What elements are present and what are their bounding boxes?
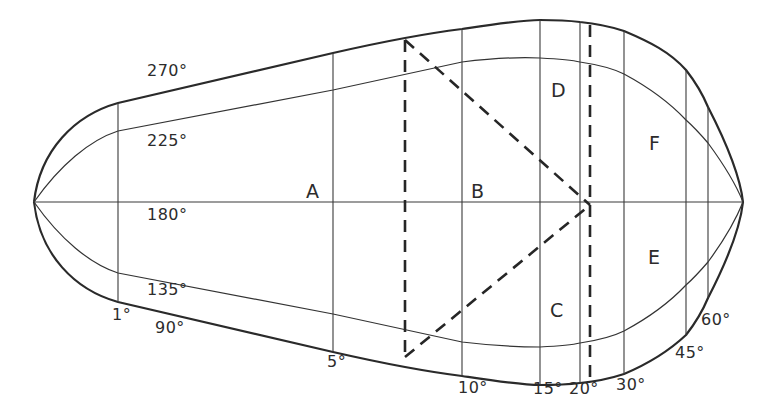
inner-curve-225 [34, 58, 743, 202]
tick-10deg: 10° [458, 378, 488, 397]
label-270: 270° [147, 61, 188, 80]
region-D: D [551, 79, 566, 101]
region-F: F [649, 132, 660, 154]
tick-5deg: 5° [327, 352, 346, 371]
label-180: 180° [147, 205, 188, 224]
region-C: C [550, 299, 563, 321]
region-E: E [648, 246, 660, 268]
label-135: 135° [147, 280, 188, 299]
envelope-diagram: 270° 225° 180° 135° 90° 1° 5° 10° 15° 20… [0, 0, 765, 412]
tick-45deg: 45° [675, 343, 705, 362]
tick-20deg: 20° [569, 379, 599, 398]
tick-30deg: 30° [616, 375, 646, 394]
tick-15deg: 15° [533, 379, 563, 398]
dashed-diagonal-lower [405, 205, 590, 357]
region-B: B [471, 180, 484, 202]
tick-60deg: 60° [701, 310, 731, 329]
region-A: A [306, 180, 319, 202]
outer-curve-90 [34, 202, 743, 385]
label-225: 225° [147, 131, 188, 150]
label-90: 90° [155, 318, 185, 337]
outer-curve-270 [34, 20, 743, 202]
inner-curve-135 [34, 202, 743, 347]
dashed-diagonal-upper [405, 40, 590, 205]
tick-1deg: 1° [112, 305, 131, 324]
